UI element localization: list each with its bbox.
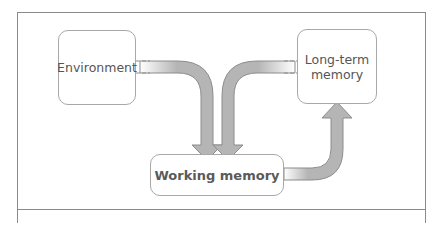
- arrow-long-term-memory-to-working-memory: [213, 61, 298, 160]
- long-term-memory-label: Long-term memory: [305, 52, 369, 82]
- environment-label: Environment: [57, 60, 137, 75]
- arrow-working-memory-to-long-term-memory: [277, 102, 352, 181]
- environment-node: Environment: [58, 30, 136, 105]
- arrow-environment-to-working-memory: [136, 61, 222, 160]
- long-term-memory-label-line1: Long-term: [305, 52, 369, 67]
- working-memory-node: Working memory: [150, 154, 284, 196]
- long-term-memory-label-line2: memory: [311, 67, 363, 82]
- working-memory-label: Working memory: [154, 168, 279, 183]
- long-term-memory-node: Long-term memory: [297, 29, 377, 104]
